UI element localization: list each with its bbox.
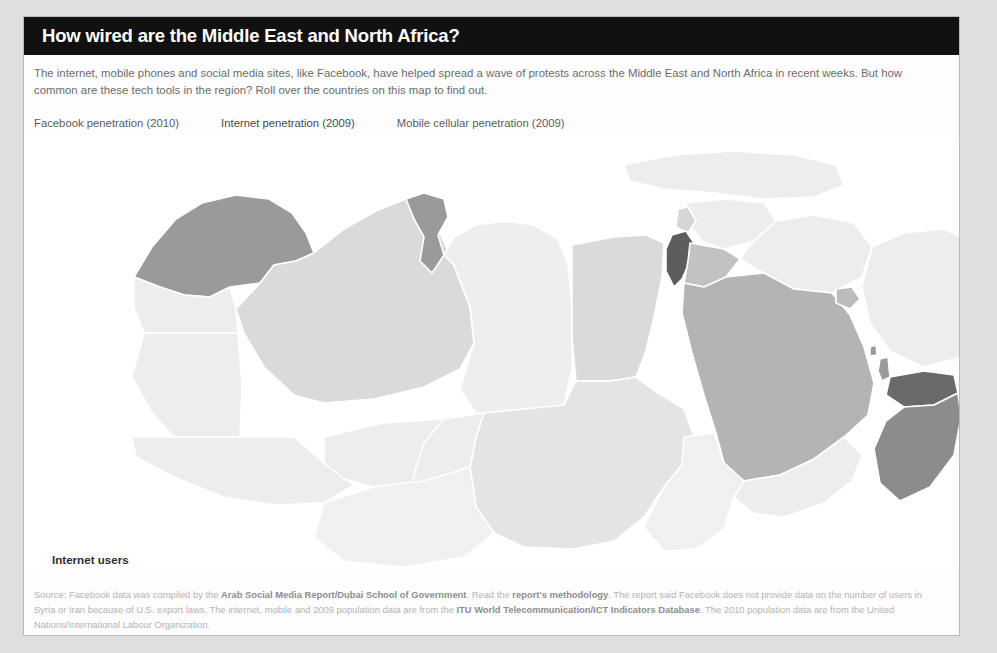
page-background: How wired are the Middle East and North … [0,0,997,653]
source-text-part2: . Read the [466,589,512,600]
source-link-arab-social-media-report[interactable]: Arab Social Media Report/Dubai School of… [221,589,466,600]
tab-bar: Facebook penetration (2010) Internet pen… [32,113,605,133]
infographic-card: How wired are the Middle East and North … [23,16,960,636]
map-legend: Internet users 0 to 10 percent 10 to 25 … [48,549,177,572]
page-title: How wired are the Middle East and North … [42,25,460,47]
source-note: Source: Facebook data was compiled by th… [34,587,944,632]
map-svg [24,137,960,572]
tab-facebook-penetration[interactable]: Facebook penetration (2010) [32,113,195,133]
intro-paragraph: The internet, mobile phones and social m… [34,65,946,99]
source-link-itu-database[interactable]: ITU World Telecommunication/ICT Indicato… [456,604,699,615]
region-bahrain[interactable] [870,345,877,356]
region-qatar[interactable] [878,357,890,381]
source-text-part1: Source: Facebook data was compiled by th… [34,589,221,600]
header-bar: How wired are the Middle East and North … [24,17,960,55]
source-link-report-methodology[interactable]: report's methodology [512,589,608,600]
tab-internet-penetration[interactable]: Internet penetration (2009) [219,113,371,133]
choropleth-map[interactable]: Internet users 0 to 10 percent 10 to 25 … [24,137,960,572]
tab-mobile-cellular-penetration[interactable]: Mobile cellular penetration (2009) [395,113,581,133]
legend-title: Internet users [52,553,169,566]
